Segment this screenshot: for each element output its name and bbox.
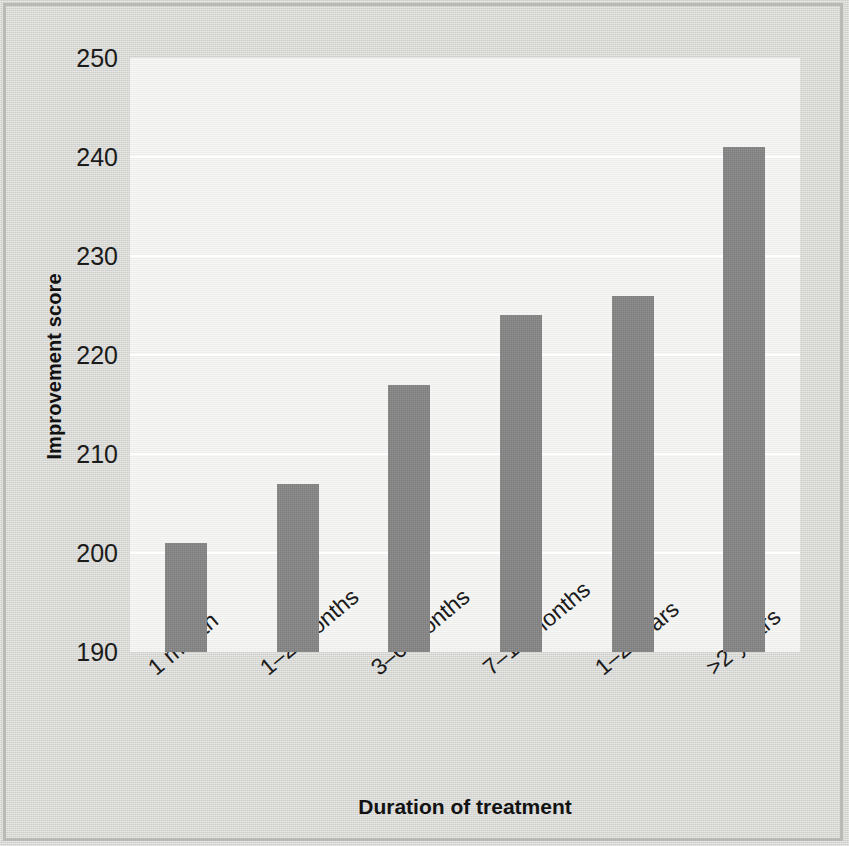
gridline bbox=[130, 453, 800, 455]
gridline bbox=[130, 255, 800, 257]
bar bbox=[612, 296, 654, 652]
x-axis-title: Duration of treatment bbox=[130, 795, 800, 819]
bar bbox=[500, 315, 542, 652]
gridline bbox=[130, 156, 800, 158]
figure-container: 190200210220230240250 Improvement score … bbox=[0, 0, 849, 846]
y-axis-tick-label: 190 bbox=[0, 640, 118, 665]
y-axis-tick-label: 200 bbox=[0, 541, 118, 566]
gridline bbox=[130, 552, 800, 554]
bar bbox=[165, 543, 207, 652]
y-axis-tick-label: 250 bbox=[0, 46, 118, 71]
gridline bbox=[130, 354, 800, 356]
bar bbox=[723, 147, 765, 652]
y-axis-tick-label: 240 bbox=[0, 145, 118, 170]
plot-area bbox=[130, 58, 800, 652]
bar bbox=[388, 385, 430, 652]
y-axis-title: Improvement score bbox=[43, 217, 66, 517]
bar bbox=[277, 484, 319, 652]
